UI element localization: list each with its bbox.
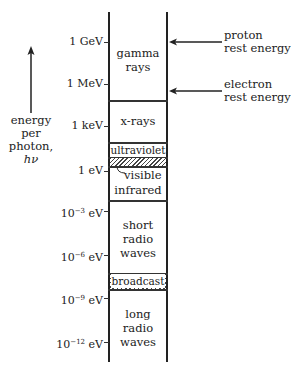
tick-label-1gev: 1 GeV	[3, 36, 103, 48]
annotation-electron-rest-energy: electronrest energy	[224, 78, 291, 104]
annotation-proton-rest-energy: protonrest energy	[224, 29, 291, 55]
band-long-radio-waves: longradiowaves	[110, 307, 166, 349]
tick-label-1e-3ev: 10−3 eV	[3, 205, 103, 220]
band-short-radio-waves: shortradiowaves	[110, 218, 166, 260]
energy-up-arrow-icon	[26, 45, 36, 115]
band-ultraviolet: ultraviolet	[110, 143, 166, 157]
tick-label-1e-9ev: 10−9 eV	[3, 292, 103, 307]
electron-arrow-icon	[168, 86, 224, 96]
band-x-rays: x-rays	[110, 114, 166, 128]
tick-1gev	[104, 42, 109, 43]
spectrum-right-border	[166, 12, 168, 362]
tick-1e-6ev	[104, 255, 109, 256]
tick-label-1e-12ev: 10−12 eV	[3, 336, 103, 351]
axis-label-energy-per-photon: energy per photon, hν	[1, 114, 61, 166]
divider-broadcast-bottom	[108, 289, 168, 291]
tick-label-1ev: 1 eV	[3, 165, 103, 177]
proton-arrow-icon	[168, 37, 224, 47]
tick-1mev	[104, 84, 109, 85]
tick-1e-3ev	[104, 211, 109, 212]
tick-1e-9ev	[104, 298, 109, 299]
tick-1kev	[104, 126, 109, 127]
band-broadcast: broadcast	[110, 274, 166, 288]
band-visible: visible	[124, 168, 166, 182]
divider-infrared-radio	[108, 200, 168, 202]
band-infrared: infrared	[110, 183, 166, 197]
divider-gamma-xray	[108, 100, 168, 102]
tick-1e-12ev	[104, 342, 109, 343]
band-gamma-rays: gammarays	[110, 46, 166, 74]
tick-label-1e-6ev: 10−6 eV	[3, 249, 103, 264]
tick-label-1mev: 1 MeV	[3, 78, 103, 90]
tick-1ev	[104, 171, 109, 172]
